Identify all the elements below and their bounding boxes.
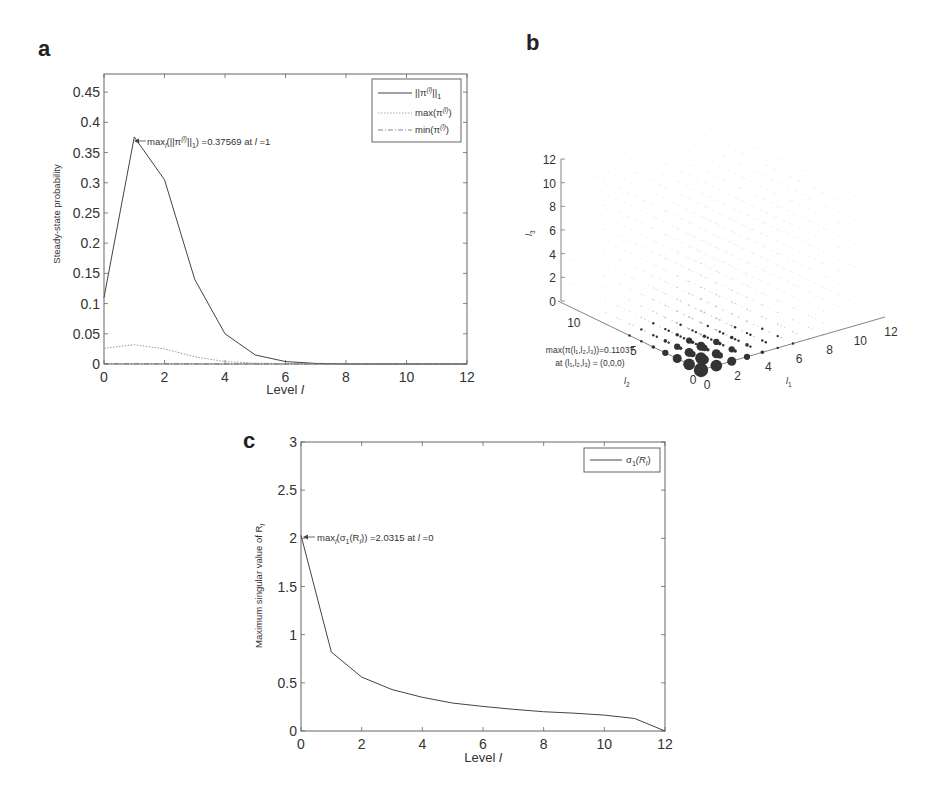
- chart-c-max-annotation: maxl(σ1(Rl)) =2.0315 at l =0: [303, 532, 433, 545]
- scatter-marker: [761, 351, 765, 355]
- y-tick-label: 1.5: [278, 579, 298, 595]
- x-tick-label: 12: [884, 325, 898, 339]
- scatter-marker: [737, 340, 739, 342]
- scatter-marker: [727, 357, 736, 366]
- scatter-marker: [777, 335, 779, 337]
- chart-b-point-cloud: [558, 106, 886, 358]
- scatter-marker: [662, 350, 668, 356]
- scatter-marker: [640, 340, 642, 342]
- scatter-marker: [722, 332, 724, 334]
- scatter-marker: [765, 341, 767, 343]
- y-tick-label: 2: [289, 530, 297, 546]
- chart-c-plot-frame: [301, 442, 665, 731]
- chart-a: 024681012 00.050.10.150.20.250.30.350.40…: [51, 74, 475, 397]
- z-tick-label: 4: [549, 248, 556, 262]
- x-tick-label: 2: [734, 369, 741, 383]
- chart-b-l2-label: l2: [624, 376, 630, 388]
- scatter-marker: [719, 331, 721, 333]
- scatter-marker: [640, 328, 642, 330]
- z-tick-label: 12: [543, 153, 557, 167]
- scatter-marker: [652, 345, 656, 349]
- scatter-marker: [713, 339, 719, 345]
- x-tick-label: 8: [540, 736, 548, 752]
- scatter-marker: [734, 338, 736, 340]
- scatter-marker: [729, 346, 735, 352]
- scatter-marker: [668, 341, 670, 343]
- scatter-marker: [674, 344, 680, 350]
- scatter-marker: [686, 337, 692, 343]
- scatter-marker: [656, 336, 658, 338]
- chart-c-legend: σ1(Rl): [584, 448, 660, 472]
- y-tick-label: 0.35: [73, 145, 100, 161]
- z-tick-label: 2: [549, 271, 556, 285]
- arrow-left-icon: [134, 139, 139, 144]
- scatter-marker: [745, 343, 749, 347]
- scatter-marker: [675, 333, 679, 337]
- chart-b: 0246810120246810120510 max(π(l₁,l₂,l₃))=…: [524, 106, 898, 392]
- y-tick-label: 0.05: [73, 326, 100, 342]
- chart-c-x-ticks: 024681012: [297, 442, 673, 752]
- z-tick-label: 8: [549, 200, 556, 214]
- x-tick-label: 2: [161, 369, 169, 385]
- y-tick-label: 2.5: [278, 482, 298, 498]
- y-tick-label: 0: [690, 373, 697, 387]
- x-tick-label: 0: [100, 369, 108, 385]
- y-tick-label: 0: [289, 723, 297, 739]
- chart-c-x-label: Level l: [464, 750, 503, 765]
- scatter-marker: [628, 334, 630, 336]
- scatter-marker: [734, 326, 736, 328]
- y-tick-label: 0.15: [73, 265, 100, 281]
- x-tick-label: 8: [342, 369, 350, 385]
- x-tick-label: 10: [597, 736, 613, 752]
- chart-a-series: [104, 137, 467, 364]
- chart-a-max-annotation: maxl(||π(l)||1) =0.37569 at l =1: [134, 135, 270, 149]
- z-tick-label: 0: [549, 295, 556, 309]
- scatter-marker: [710, 360, 722, 372]
- scatter-marker: [695, 343, 697, 345]
- z-tick-label: 6: [549, 224, 556, 238]
- scatter-marker: [707, 337, 709, 339]
- chart-a-legend: ||π(l)||1 max(π(l)) min(π(l)): [372, 79, 461, 142]
- x-tick-label: 2: [358, 736, 366, 752]
- chart-c-y-label: Maximum singular value of Rl: [253, 524, 266, 649]
- scatter-marker: [695, 352, 707, 364]
- chart-b-l1-label: l1: [786, 376, 792, 388]
- scatter-marker: [792, 342, 794, 344]
- scatter-marker: [664, 328, 666, 330]
- scatter-marker: [683, 337, 685, 339]
- x-tick-label: 4: [221, 369, 229, 385]
- scatter-marker: [749, 345, 751, 347]
- x-tick-label: 0: [704, 378, 711, 392]
- scatter-marker: [652, 322, 654, 324]
- y-tick-label: 1: [289, 627, 297, 643]
- scatter-marker: [691, 329, 693, 331]
- scatter-marker: [668, 330, 670, 332]
- scatter-marker: [664, 339, 668, 343]
- chart-a-x-label: Level l: [266, 382, 305, 397]
- chart-b-annotation-line1: max(π(l₁,l₂,l₃))=0.11037: [546, 345, 635, 355]
- x-tick-label: 0: [297, 736, 305, 752]
- x-tick-label: 6: [796, 352, 803, 366]
- series-line: [104, 137, 467, 364]
- y-tick-label: 0.45: [73, 84, 100, 100]
- x-tick-label: 4: [418, 736, 426, 752]
- svg-text:maxl(σ1(Rl)) =2.0315 at l =0: maxl(σ1(Rl)) =2.0315 at l =0: [317, 532, 433, 545]
- scatter-marker: [777, 347, 779, 349]
- x-tick-label: 12: [459, 369, 475, 385]
- scatter-marker: [683, 358, 695, 370]
- chart-b-l3-label: l3: [524, 230, 536, 236]
- chart-c-y-ticks: 00.511.522.53: [278, 434, 665, 739]
- x-tick-label: 10: [854, 334, 868, 348]
- y-tick-label: 0.25: [73, 205, 100, 221]
- y-tick-label: 0.1: [81, 296, 101, 312]
- scatter-marker: [730, 336, 734, 340]
- chart-b-annotation-line2: at (l₁,l₂,l₃) = (0,0,0): [555, 358, 625, 368]
- scatter-marker: [722, 344, 724, 346]
- chart-c: 024681012 00.511.522.53 maxl(σ1(Rl)) =2.…: [253, 434, 673, 765]
- y-tick-label: 0: [92, 356, 100, 372]
- z-tick-label: 10: [543, 177, 557, 191]
- svg-text:maxl(||π(l)||1) =0.37569 at l: maxl(||π(l)||1) =0.37569 at l =1: [147, 135, 270, 149]
- chart-c-series: [301, 535, 665, 731]
- x-tick-label: 12: [657, 736, 673, 752]
- scatter-marker: [697, 342, 706, 351]
